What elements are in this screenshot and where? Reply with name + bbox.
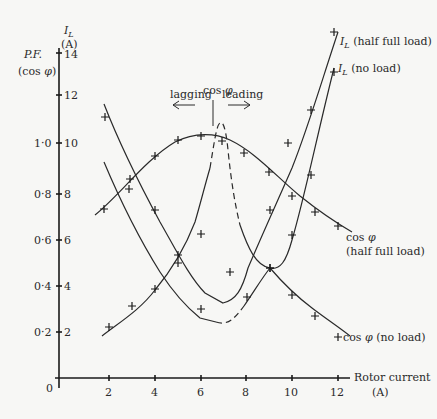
annotation-leading: leading [222,88,263,101]
origin-label: 0 [46,382,53,395]
x-axis-unit: (A) [372,386,389,399]
annotation-lagging: lagging [170,88,212,101]
label-il-half-load: IL (half full load) [339,35,432,50]
arrow-right-icon [228,101,250,109]
svg-text:6: 6 [197,386,204,399]
label-cos-half-load: cos φ [346,231,376,244]
label-cos-half-load-sub: (half full load) [346,245,425,258]
x-axis-title: Rotor current [354,371,431,384]
arrow-left-icon [173,101,195,109]
svg-text:10: 10 [284,386,298,399]
svg-text:0·2: 0·2 [34,326,52,339]
svg-text:0·8: 0·8 [34,188,52,201]
svg-text:1·0: 1·0 [34,137,52,150]
svg-text:10: 10 [64,137,78,150]
y-tick-labels-pf: 0·2 0·4 0·6 0·8 1·0 [34,137,52,339]
svg-text:0·6: 0·6 [34,234,52,247]
y-tick-labels-current: 2 4 6 8 10 12 14 [64,48,78,339]
chart: 2 4 6 8 10 12 14 0·2 0·4 0·6 0·8 1·0 0 I… [0,0,437,419]
svg-text:2: 2 [105,386,112,399]
label-il-no-load: IL (no load) [337,62,401,77]
curve-cos-no-load-right [244,268,350,336]
data-markers [100,28,342,341]
svg-text:4: 4 [151,386,158,399]
curve-cos-no-load-dashed [216,306,244,323]
curve-il-half-load [104,32,338,303]
svg-text:0·4: 0·4 [34,280,52,293]
svg-text:8: 8 [242,386,249,399]
x-tick-labels: 2 4 6 8 10 12 [105,386,344,399]
y-axis-title-pf: P.F. [23,48,42,61]
svg-text:2: 2 [64,326,71,339]
label-cos-no-load: cos φ (no load) [343,331,426,344]
svg-text:6: 6 [64,234,71,247]
svg-text:12: 12 [64,89,78,102]
curve-cos-half-load [95,135,352,232]
y-axis-title-current: IL [63,24,74,39]
svg-text:12: 12 [330,386,344,399]
svg-text:8: 8 [64,188,71,201]
y-axis-title-cos: (cos φ) [18,65,56,78]
y-axis-unit: (A) [61,38,78,51]
svg-text:4: 4 [64,280,71,293]
curve-cos-no-load [104,162,216,322]
